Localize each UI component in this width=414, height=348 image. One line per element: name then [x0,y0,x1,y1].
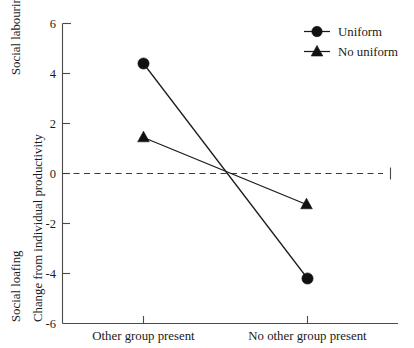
y-tick-label-4: 4 [50,67,57,81]
line-chart: 6 4 2 0 -2 -4 -6 Other group present No … [0,0,414,348]
y-tick-label-0: 0 [50,167,56,181]
y-tick-label-minus-4: -4 [46,267,57,281]
legend-label-uniform: Uniform [338,25,382,39]
x-category-label-1: No other group present [248,329,367,343]
legend-circle-icon [312,26,322,36]
chart-container: 6 4 2 0 -2 -4 -6 Other group present No … [0,0,414,348]
y-tick-label-minus-6: -6 [46,317,56,331]
y-axis-pole-label-top: Social labouring [9,0,23,75]
legend-label-no-uniform: No uniform [338,45,398,59]
y-axis-pole-label-bottom: Social loafing [9,250,23,322]
y-tick-label-2: 2 [50,117,56,131]
y-tick-label-minus-2: -2 [46,217,56,231]
x-category-label-0: Other group present [92,329,195,343]
data-point-uniform-no-other-group-present [302,273,313,284]
data-point-uniform-other-group-present [138,58,149,69]
y-tick-label-6: 6 [50,17,56,31]
y-axis-title: Change from individual productivity [31,133,45,322]
